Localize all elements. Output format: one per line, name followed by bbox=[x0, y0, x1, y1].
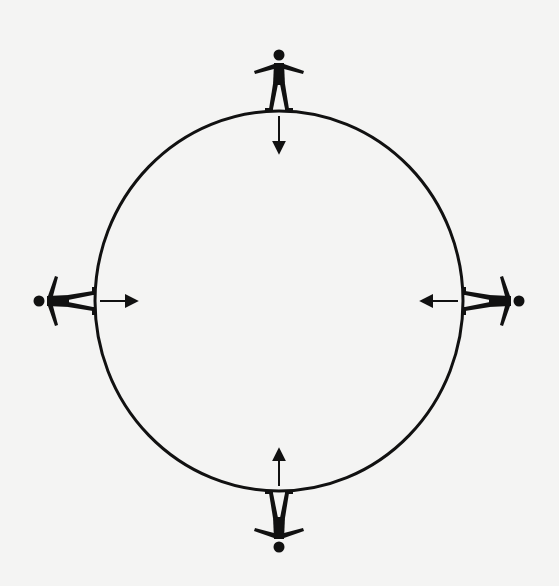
person-icon bbox=[254, 491, 304, 553]
person-icon bbox=[254, 50, 304, 112]
person-icon bbox=[463, 276, 525, 326]
figure-top bbox=[254, 50, 304, 153]
figure-bottom bbox=[254, 450, 304, 553]
person-icon bbox=[34, 276, 96, 326]
figure-right bbox=[422, 276, 525, 326]
planet-circle bbox=[95, 111, 463, 491]
figure-left bbox=[34, 276, 137, 326]
gravity-diagram bbox=[0, 0, 559, 586]
